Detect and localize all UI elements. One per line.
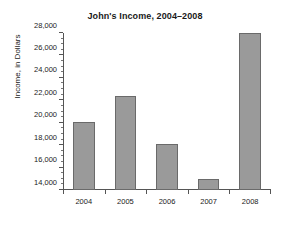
y-axis-minor-tick	[61, 155, 63, 156]
y-axis-tick-label: 24,000	[34, 65, 57, 74]
x-axis-tick-label: 2008	[242, 197, 259, 206]
y-axis-tick-label: 22,000	[34, 87, 57, 96]
y-axis-tick-label: 16,000	[34, 155, 57, 164]
plot-area: 14,00016,00018,00020,00022,00024,00026,0…	[63, 33, 271, 190]
y-axis-minor-tick	[61, 127, 63, 128]
y-axis-tick-label: 20,000	[34, 110, 57, 119]
x-axis-tick-label: 2007	[200, 197, 217, 206]
bar-chart-figure: John's Income, 2004–2008 Income, in Doll…	[0, 0, 290, 227]
y-axis-minor-tick	[61, 94, 63, 95]
y-axis-tick-label: 28,000	[34, 20, 57, 29]
y-axis-minor-tick	[61, 116, 63, 117]
y-axis-tick-label: 26,000	[34, 42, 57, 51]
y-axis-title: Income, in Dollars	[13, 2, 22, 132]
y-axis-minor-tick	[61, 38, 63, 39]
y-axis-minor-tick	[61, 82, 63, 83]
y-axis-tick	[59, 54, 63, 55]
y-axis-minor-tick	[61, 49, 63, 50]
x-axis-tick	[229, 190, 230, 194]
y-axis-minor-tick	[61, 161, 63, 162]
bar-2008	[239, 33, 261, 190]
y-axis-tick-label: 14,000	[34, 177, 57, 186]
y-axis-minor-tick	[61, 111, 63, 112]
y-axis-minor-tick	[61, 105, 63, 106]
y-axis-minor-tick	[61, 150, 63, 151]
y-axis-minor-tick	[61, 172, 63, 173]
bar-2007	[198, 179, 220, 190]
bar-2006	[156, 144, 178, 190]
y-axis-minor-tick	[61, 88, 63, 89]
y-axis-minor-tick	[61, 60, 63, 61]
y-axis-minor-tick	[61, 43, 63, 44]
y-axis-minor-tick	[61, 71, 63, 72]
y-axis-tick	[59, 167, 63, 168]
y-axis-minor-tick	[61, 133, 63, 134]
x-axis-tick	[188, 190, 189, 194]
y-axis-minor-tick	[61, 183, 63, 184]
y-axis-tick	[59, 99, 63, 100]
y-axis-minor-tick	[61, 66, 63, 67]
y-axis-tick-label: 18,000	[34, 132, 57, 141]
x-axis-tick	[270, 190, 271, 194]
y-axis-line	[63, 33, 64, 190]
x-axis-tick	[105, 190, 106, 194]
y-axis-minor-tick	[61, 139, 63, 140]
y-axis-tick	[59, 144, 63, 145]
x-axis-tick	[146, 190, 147, 194]
x-axis-tick-label: 2005	[117, 197, 134, 206]
x-axis-tick-label: 2006	[159, 197, 176, 206]
bar-2004	[73, 122, 95, 190]
y-axis-tick	[59, 32, 63, 33]
y-axis-tick	[59, 77, 63, 78]
y-axis-minor-tick	[61, 178, 63, 179]
y-axis-tick	[59, 122, 63, 123]
x-axis-tick	[63, 190, 64, 194]
x-axis-tick-label: 2004	[75, 197, 92, 206]
bar-2005	[115, 96, 137, 190]
